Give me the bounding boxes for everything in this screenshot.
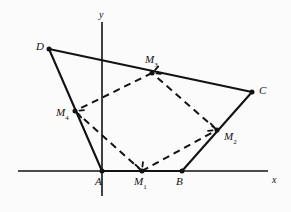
point-label-M4: M4 [56,107,69,121]
point-label-B: B [176,176,183,187]
point-label-M2: M2 [224,131,237,145]
point-dot-M1 [140,169,145,174]
x-axis-label: x [272,175,276,185]
point-dot-M2 [215,128,220,133]
point-label-M3-text: M [145,53,154,65]
point-label-M3: M3 [145,54,158,68]
point-dot-D [47,47,52,52]
tick-M2-stroke-2 [211,124,214,127]
point-label-M4-text: M [56,106,65,118]
tick-M1-stroke-1 [136,165,139,168]
y-axis-label: y [99,10,103,20]
point-dot-M4 [73,109,78,114]
point-label-M4-subscript: 4 [65,114,69,122]
midseg-M4-M1 [75,111,142,171]
point-dot-M3 [150,71,155,76]
point-label-A-text: A [95,175,102,187]
midseg-M3-M4 [75,73,152,111]
point-label-M3-subscript: 3 [154,61,158,69]
point-label-D: D [36,41,44,52]
point-label-M2-subscript: 2 [233,138,237,146]
point-dot-A [100,169,105,174]
point-label-M2-text: M [224,130,233,142]
point-dot-C [250,90,255,95]
point-label-C-text: C [259,84,266,96]
point-dot-B [180,169,185,174]
point-label-A: A [95,176,102,187]
point-label-B-text: B [176,175,183,187]
midpoint-tick-marks-group [78,67,214,168]
midseg-M1-M2 [142,130,217,171]
point-label-M1-text: M [134,175,143,187]
geometry-figure-canvas: ABCDM1M2M3M4 x y [0,0,291,212]
point-label-D-text: D [36,40,44,52]
point-label-C: C [259,85,266,96]
point-label-M1-subscript: 1 [143,183,147,191]
point-label-M1: M1 [134,176,147,190]
